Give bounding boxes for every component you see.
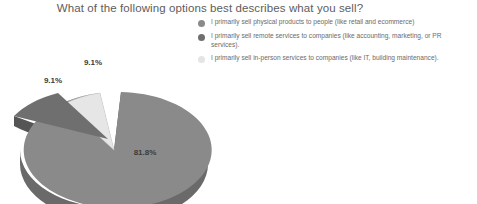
pie-label-major: 81.8% <box>134 148 157 157</box>
pie-chart-figure: What of the following options best descr… <box>0 0 477 204</box>
legend-item-remote-services[interactable]: I primarily sell remote services to comp… <box>198 32 474 49</box>
chart-title: What of the following options best descr… <box>0 2 420 14</box>
legend-item-in-person-services[interactable]: I primarily sell in-person services to c… <box>198 54 474 63</box>
pie-label-light: 9.1% <box>84 58 102 67</box>
legend-item-label: I primarily sell remote services to comp… <box>211 32 469 49</box>
pie-label-exploded: 9.1% <box>44 76 62 85</box>
legend-item-physical-products[interactable]: I primarily sell physical products to pe… <box>198 18 474 27</box>
pie-svg: 81.8% 9.1% 9.1% <box>0 38 230 204</box>
legend-item-label: I primarily sell physical products to pe… <box>211 18 414 27</box>
legend-bullet-icon <box>198 20 205 27</box>
pie-plot-area: 81.8% 9.1% 9.1% <box>0 38 230 204</box>
legend-item-label: I primarily sell in-person services to c… <box>211 54 439 63</box>
chart-legend: I primarily sell physical products to pe… <box>198 18 474 68</box>
